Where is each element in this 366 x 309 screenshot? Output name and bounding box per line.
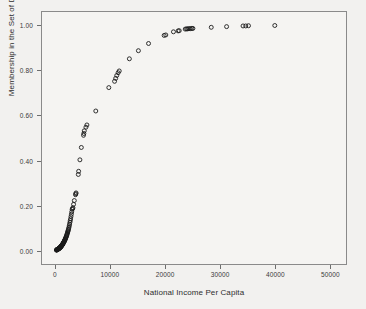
data-point <box>72 199 76 203</box>
x-tick-label: 20000 <box>156 271 175 278</box>
y-tick-label: 0.40 <box>20 157 33 164</box>
plot-area <box>41 11 347 265</box>
data-point <box>136 49 140 53</box>
data-point <box>94 109 98 113</box>
data-point <box>209 25 213 29</box>
data-point <box>247 24 251 28</box>
data-point <box>107 86 111 90</box>
y-tick-label: 0.00 <box>20 248 33 255</box>
x-tick-mark <box>55 265 56 269</box>
x-tick-mark <box>220 265 221 269</box>
data-point <box>225 25 229 29</box>
y-tick-mark <box>37 70 41 71</box>
x-tick-label: 10000 <box>100 271 119 278</box>
y-tick-label: 0.60 <box>20 112 33 119</box>
data-point <box>171 30 175 34</box>
x-tick-mark <box>165 265 166 269</box>
y-tick-mark <box>37 251 41 252</box>
y-tick-mark <box>37 206 41 207</box>
scatter-canvas <box>42 12 346 264</box>
chart-page: 01000020000300004000050000 0.000.200.400… <box>0 0 366 309</box>
data-point <box>79 145 83 149</box>
y-tick-mark <box>37 25 41 26</box>
data-point <box>273 24 277 28</box>
x-tick-mark <box>110 265 111 269</box>
x-axis-title: National Income Per Capita <box>41 288 347 297</box>
x-tick-label: 50000 <box>321 271 340 278</box>
y-tick-label: 1.00 <box>20 21 33 28</box>
data-point <box>78 158 82 162</box>
x-tick-mark <box>330 265 331 269</box>
y-tick-label: 0.20 <box>20 203 33 210</box>
x-tick-label: 30000 <box>211 271 230 278</box>
x-tick-mark <box>275 265 276 269</box>
y-tick-mark <box>37 115 41 116</box>
y-axis-title: Membership in the Set of Developed Count… <box>7 0 19 138</box>
y-tick-mark <box>37 161 41 162</box>
y-tick-label: 0.80 <box>20 66 33 73</box>
data-point <box>147 42 151 46</box>
data-point <box>127 57 131 61</box>
x-tick-label: 40000 <box>266 271 285 278</box>
x-tick-label: 0 <box>53 271 57 278</box>
